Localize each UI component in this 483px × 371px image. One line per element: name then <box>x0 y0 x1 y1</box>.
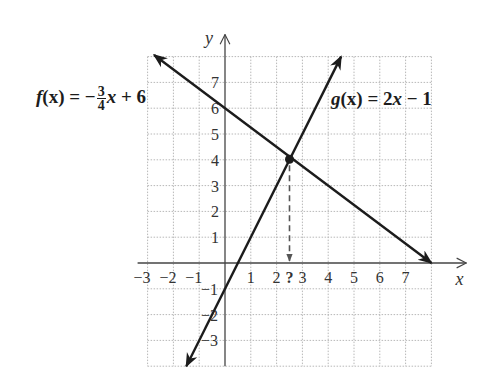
g-name: g <box>331 88 341 109</box>
x-tick-label: 7 <box>402 269 410 286</box>
x-tick-label: −2 <box>159 269 176 286</box>
y-tick-label: 2 <box>211 203 219 220</box>
x-axis-label: x <box>454 269 463 289</box>
y-tick-label: 5 <box>211 126 219 143</box>
g-line <box>186 57 341 367</box>
g-var: x <box>392 88 402 109</box>
f-var: x <box>107 86 117 107</box>
g-equation-label: g(x) = 2x − 1 <box>331 88 432 110</box>
x-tick-label: 1 <box>247 269 255 286</box>
fraction-denominator: 4 <box>97 99 106 112</box>
f-paren: (x) = − <box>42 86 95 107</box>
x-tick-label: −1 <box>185 269 202 286</box>
y-tick-label: 4 <box>211 152 219 169</box>
g-constant: − 1 <box>402 88 432 109</box>
y-tick-label: 3 <box>211 178 219 195</box>
coordinate-plane: xy−3−2−11234567?7654321−1−2−3 <box>0 0 483 371</box>
intersection-point <box>285 155 294 164</box>
y-tick-label: 7 <box>211 74 219 91</box>
y-tick-label: −1 <box>201 281 218 298</box>
x-tick-label: 6 <box>376 269 384 286</box>
unknown-x-label: ? <box>286 269 294 286</box>
x-tick-label: 4 <box>324 269 332 286</box>
y-axis-label: y <box>203 28 213 48</box>
x-tick-label: 5 <box>350 269 358 286</box>
fraction: 34 <box>97 85 106 112</box>
x-tick-label: −3 <box>134 269 151 286</box>
y-tick-label: 1 <box>211 229 219 246</box>
x-tick-label: 3 <box>298 269 306 286</box>
g-paren: (x) = 2 <box>341 88 393 109</box>
f-constant: + 6 <box>116 86 146 107</box>
y-tick-label: −3 <box>201 332 218 349</box>
x-tick-label: 2 <box>273 269 281 286</box>
f-equation-label: f(x) = −34x + 6 <box>36 85 146 112</box>
fraction-numerator: 3 <box>97 85 106 99</box>
